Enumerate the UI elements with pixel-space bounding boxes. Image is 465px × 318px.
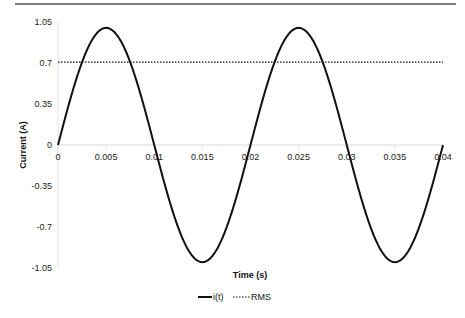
y-tick-label: 1.05 [34, 17, 52, 27]
x-tick-label: 0.01 [145, 152, 163, 162]
x-axis-title: Time (s) [233, 270, 267, 280]
x-tick-label: 0.025 [287, 152, 310, 162]
x-tick-label: 0.04 [434, 152, 452, 162]
line-chart: 1.050.70.350-0.35-0.7-1.05 00.0050.010.0… [0, 0, 465, 318]
y-tick-label: 0.35 [34, 99, 52, 109]
y-tick-label: 0 [47, 140, 52, 150]
y-axis: 1.050.70.350-0.35-0.7-1.05 [31, 17, 58, 273]
x-tick-label: 0 [55, 152, 60, 162]
x-axis: 00.0050.010.0150.020.0250.030.0350.04 [55, 145, 451, 162]
y-tick-label: -0.35 [31, 181, 52, 191]
x-tick-label: 0.03 [338, 152, 356, 162]
legend-label-i-t: i(t) [213, 292, 224, 302]
y-tick-label: 0.7 [39, 58, 52, 68]
x-tick-label: 0.035 [384, 152, 407, 162]
x-tick-label: 0.015 [191, 152, 214, 162]
legend-label-rms: RMS [251, 292, 271, 302]
y-tick-label: -1.05 [31, 263, 52, 273]
x-tick-label: 0.005 [95, 152, 118, 162]
y-axis-title: Current (A) [18, 121, 28, 169]
legend: i(t) RMS [198, 292, 271, 302]
x-tick-label: 0.02 [242, 152, 260, 162]
y-tick-label: -0.7 [36, 222, 52, 232]
